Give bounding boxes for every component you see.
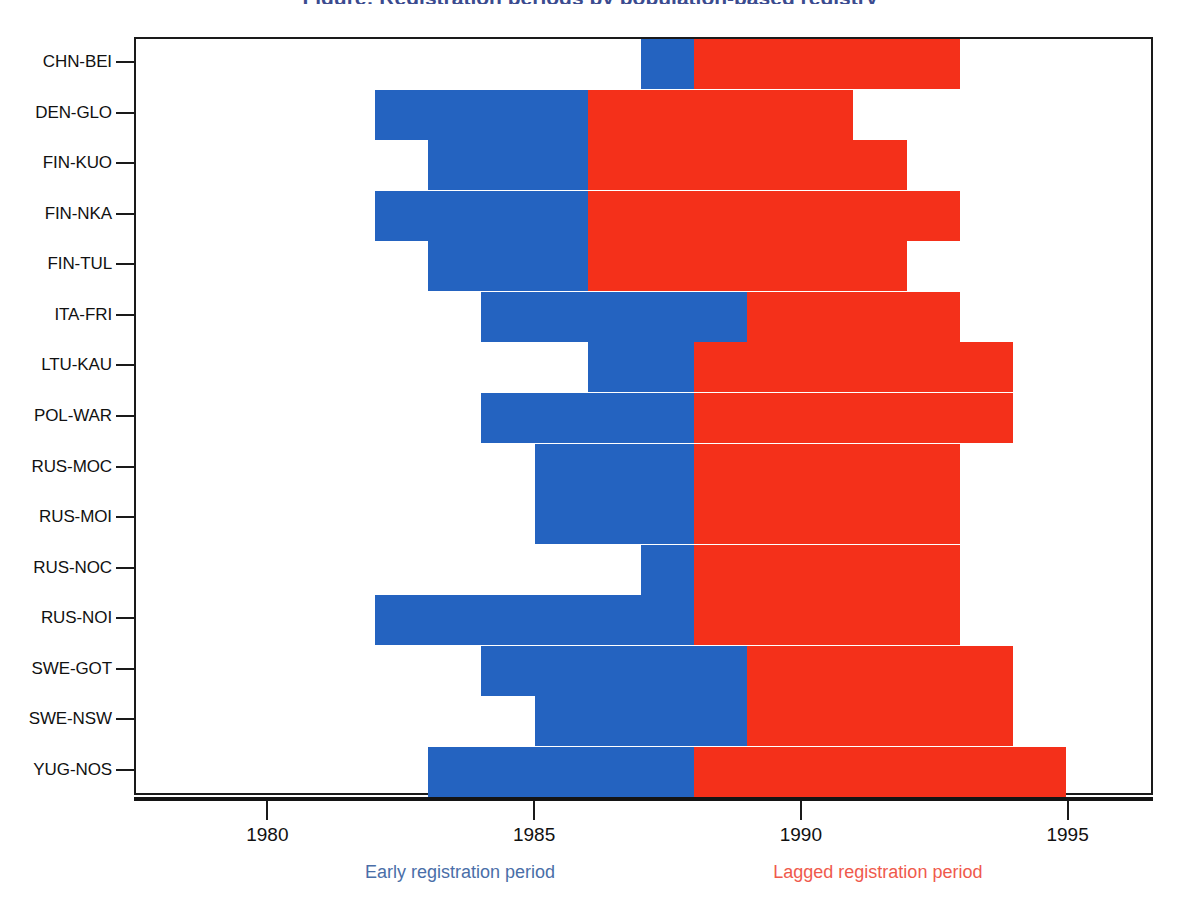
y-axis-tick bbox=[116, 567, 134, 569]
y-axis-label-swe-got: SWE-GOT bbox=[31, 659, 112, 679]
x-axis-tick bbox=[533, 801, 535, 820]
y-axis-label-rus-noc: RUS-NOC bbox=[33, 558, 112, 578]
y-axis-tick bbox=[116, 314, 134, 316]
y-axis-label-fin-nka: FIN-NKA bbox=[45, 204, 112, 224]
bar-segment-early bbox=[481, 292, 747, 342]
x-axis-tick bbox=[266, 801, 268, 820]
y-axis-label-ltu-kau: LTU-KAU bbox=[41, 355, 112, 375]
y-axis-label-ita-fri: ITA-FRI bbox=[54, 305, 112, 325]
bar-segment-lagged bbox=[588, 191, 960, 241]
bar-segment-early bbox=[535, 444, 694, 494]
bar-segment-early bbox=[535, 696, 748, 746]
y-axis-label-den-glo: DEN-GLO bbox=[35, 103, 112, 123]
bar-segment-lagged bbox=[588, 140, 907, 190]
y-axis-tick bbox=[116, 668, 134, 670]
bar-segment-early bbox=[641, 545, 694, 595]
bar-segment-early bbox=[535, 494, 694, 544]
bar-row bbox=[136, 393, 1151, 443]
bar-segment-lagged bbox=[747, 292, 960, 342]
bar-row bbox=[136, 494, 1151, 544]
y-axis-label-fin-kuo: FIN-KUO bbox=[43, 153, 112, 173]
y-axis: CHN-BEIDEN-GLOFIN-KUOFIN-NKAFIN-TULITA-F… bbox=[0, 37, 134, 795]
bar-row bbox=[136, 39, 1151, 89]
y-axis-tick bbox=[116, 61, 134, 63]
y-axis-tick bbox=[116, 415, 134, 417]
x-axis-tick bbox=[800, 801, 802, 820]
bar-segment-lagged bbox=[694, 494, 960, 544]
bar-segment-lagged bbox=[694, 595, 960, 645]
y-axis-tick bbox=[116, 617, 134, 619]
y-axis-label-fin-tul: FIN-TUL bbox=[48, 254, 112, 274]
bar-row bbox=[136, 696, 1151, 746]
bar-row bbox=[136, 292, 1151, 342]
bar-segment-lagged bbox=[694, 545, 960, 595]
bar-segment-lagged bbox=[747, 646, 1013, 696]
bar-segment-early bbox=[375, 90, 588, 140]
bar-row bbox=[136, 241, 1151, 291]
bar-row bbox=[136, 444, 1151, 494]
bar-segment-early bbox=[428, 241, 587, 291]
bar-segment-lagged bbox=[747, 696, 1013, 746]
y-axis-label-swe-nsw: SWE-NSW bbox=[29, 709, 112, 729]
bar-row bbox=[136, 90, 1151, 140]
bar-row bbox=[136, 140, 1151, 190]
y-axis-tick bbox=[116, 112, 134, 114]
chart-legend: Early registration period Lagged registr… bbox=[134, 862, 1153, 892]
bar-row bbox=[136, 747, 1151, 797]
bar-segment-early bbox=[481, 646, 747, 696]
bar-row bbox=[136, 342, 1151, 392]
x-axis-label-1995: 1995 bbox=[1046, 824, 1088, 846]
bar-segment-early bbox=[641, 39, 694, 89]
y-axis-label-rus-noi: RUS-NOI bbox=[41, 608, 112, 628]
bar-segment-early bbox=[588, 342, 694, 392]
y-axis-tick bbox=[116, 516, 134, 518]
bar-row bbox=[136, 595, 1151, 645]
bar-segment-lagged bbox=[694, 393, 1013, 443]
x-axis-label-1985: 1985 bbox=[513, 824, 555, 846]
y-axis-label-chn-bei: CHN-BEI bbox=[43, 52, 112, 72]
plot-area bbox=[136, 39, 1151, 793]
bar-segment-lagged bbox=[588, 241, 907, 291]
y-axis-label-yug-nos: YUG-NOS bbox=[33, 760, 112, 780]
legend-entry-lagged: Lagged registration period bbox=[773, 862, 982, 883]
y-axis-tick bbox=[116, 364, 134, 366]
x-axis-tick bbox=[1067, 801, 1069, 820]
plot-frame bbox=[134, 37, 1153, 795]
bar-row bbox=[136, 191, 1151, 241]
bar-segment-early bbox=[375, 191, 588, 241]
legend-entry-early: Early registration period bbox=[365, 862, 555, 883]
bar-segment-lagged bbox=[588, 90, 854, 140]
x-axis-label-1980: 1980 bbox=[246, 824, 288, 846]
y-axis-tick bbox=[116, 466, 134, 468]
bar-segment-early bbox=[428, 747, 694, 797]
bar-segment-lagged bbox=[694, 747, 1066, 797]
chart-title: Figure: Registration periods by populati… bbox=[0, 0, 1180, 4]
bar-segment-early bbox=[428, 140, 587, 190]
bar-row bbox=[136, 545, 1151, 595]
y-axis-tick bbox=[116, 718, 134, 720]
bar-segment-lagged bbox=[694, 39, 960, 89]
y-axis-tick bbox=[116, 213, 134, 215]
bar-row bbox=[136, 646, 1151, 696]
y-axis-label-rus-moi: RUS-MOI bbox=[39, 507, 112, 527]
y-axis-tick bbox=[116, 162, 134, 164]
y-axis-tick bbox=[116, 263, 134, 265]
x-axis: 1980198519901995 bbox=[134, 797, 1153, 857]
bar-segment-early bbox=[375, 595, 694, 645]
y-axis-label-pol-war: POL-WAR bbox=[34, 406, 112, 426]
y-axis-label-rus-moc: RUS-MOC bbox=[31, 457, 112, 477]
bar-segment-lagged bbox=[694, 444, 960, 494]
x-axis-label-1990: 1990 bbox=[780, 824, 822, 846]
bar-segment-lagged bbox=[694, 342, 1013, 392]
y-axis-tick bbox=[116, 769, 134, 771]
bar-segment-early bbox=[481, 393, 694, 443]
